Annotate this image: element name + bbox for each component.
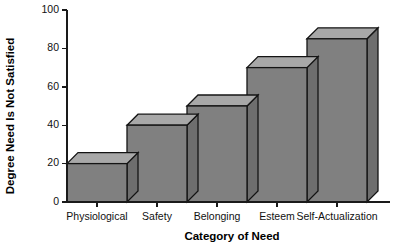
y-tick-label: 80 bbox=[47, 41, 59, 53]
bar-front-face bbox=[67, 164, 127, 202]
bar-top-face bbox=[187, 95, 258, 106]
chart-canvas: 020406080100PhysiologicalSafetyBelonging… bbox=[0, 0, 418, 244]
y-tick-label: 0 bbox=[53, 195, 59, 207]
x-tick-label: Self-Actualization bbox=[296, 210, 377, 222]
x-tick-label: Safety bbox=[142, 210, 173, 222]
bar-side-face bbox=[187, 114, 198, 202]
x-tick-label: Esteem bbox=[259, 210, 295, 222]
bar-chart: 020406080100PhysiologicalSafetyBelonging… bbox=[0, 0, 418, 244]
bar-top-face bbox=[247, 57, 318, 68]
y-tick-label: 40 bbox=[47, 118, 59, 130]
x-tick-label: Belonging bbox=[194, 210, 241, 222]
bar-group bbox=[67, 153, 138, 202]
x-tick-label: Physiological bbox=[66, 210, 127, 222]
y-axis-title: Degree Need Is Not Satisfied bbox=[4, 38, 16, 195]
y-tick-label: 20 bbox=[47, 156, 59, 168]
bar-top-face bbox=[127, 114, 198, 125]
bar-side-face bbox=[367, 28, 378, 202]
bar-side-face bbox=[307, 57, 318, 202]
bar-top-face bbox=[67, 153, 138, 164]
x-axis-title: Category of Need bbox=[184, 230, 279, 242]
bar-top-face bbox=[307, 28, 378, 39]
bar-side-face bbox=[247, 95, 258, 202]
y-tick-label: 100 bbox=[41, 3, 59, 15]
bars-layer bbox=[67, 28, 378, 202]
y-tick-label: 60 bbox=[47, 80, 59, 92]
